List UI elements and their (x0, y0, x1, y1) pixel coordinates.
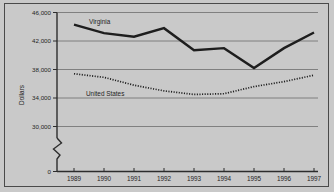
line-chart-plot: 46,000 42,000 38,000 34,000 30,000 0 Dol… (0, 0, 334, 192)
x-tick-label-1994: 1994 (217, 175, 232, 182)
series-line-virginia (74, 25, 314, 68)
series-label-virginia: Virginia (89, 18, 111, 26)
x-tick-label-1990: 1990 (97, 175, 112, 182)
gridlines (57, 13, 318, 127)
y-axis-break-zigzag (54, 138, 62, 172)
x-axis (57, 168, 318, 172)
y-tick-label-0: 0 (48, 168, 52, 175)
chart-figure: 46,000 42,000 38,000 34,000 30,000 0 Dol… (0, 0, 334, 192)
y-tick-label-42000: 42,000 (32, 37, 51, 44)
y-tick-label-34000: 34,000 (32, 94, 51, 101)
x-tick-label-1997: 1997 (307, 175, 322, 182)
x-tick-label-1995: 1995 (247, 175, 262, 182)
series-label-united-states: United States (86, 90, 124, 97)
x-tick-label-1991: 1991 (127, 175, 142, 182)
y-tick-labels: 46,000 42,000 38,000 34,000 30,000 0 (32, 9, 51, 175)
y-axis-title: Dollars (18, 85, 25, 105)
x-tick-label-1989: 1989 (67, 175, 82, 182)
y-tick-label-30000: 30,000 (32, 123, 51, 130)
x-tick-label-1992: 1992 (157, 175, 172, 182)
y-tick-label-46000: 46,000 (32, 9, 51, 16)
y-tick-label-38000: 38,000 (32, 66, 51, 73)
x-tick-labels: 1989 1990 1991 1992 1993 1994 1995 1996 … (67, 175, 322, 182)
x-tick-label-1993: 1993 (187, 175, 202, 182)
y-axis (53, 13, 62, 172)
x-tick-label-1996: 1996 (277, 175, 292, 182)
